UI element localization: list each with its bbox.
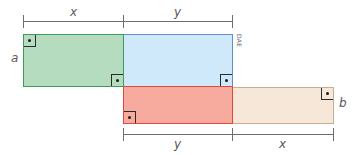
- right-angle-icon: [321, 88, 333, 100]
- top-tick-middle: [123, 15, 124, 28]
- credit-label: DAE: [236, 34, 243, 47]
- beige-rectangle: [232, 87, 334, 124]
- bottom-dimension-line: [123, 134, 334, 135]
- top-tick-right: [232, 15, 233, 28]
- blue-rectangle: [123, 34, 233, 87]
- label-left-a: a: [11, 52, 18, 64]
- label-top-x: x: [70, 6, 77, 18]
- right-angle-icon: [124, 111, 136, 123]
- bottom-tick-middle: [232, 128, 233, 141]
- bottom-tick-right: [333, 128, 334, 141]
- right-angle-icon: [24, 35, 36, 47]
- label-right-b: b: [339, 97, 347, 109]
- red-rectangle: [123, 86, 233, 124]
- label-bottom-y: y: [174, 138, 181, 150]
- top-tick-left: [23, 15, 24, 28]
- right-angle-icon: [220, 74, 232, 86]
- top-dimension-line: [23, 21, 233, 22]
- bottom-tick-left: [123, 128, 124, 141]
- label-top-y: y: [174, 6, 181, 18]
- geometry-diagram: x y a b DAE y x: [0, 0, 353, 155]
- right-angle-icon: [111, 74, 123, 86]
- label-bottom-x: x: [279, 138, 286, 150]
- green-rectangle-outline: [23, 34, 124, 87]
